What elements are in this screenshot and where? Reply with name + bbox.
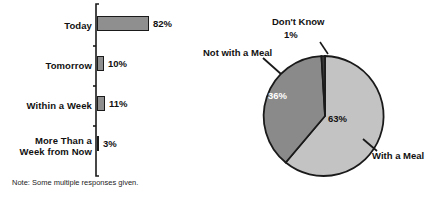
leader-line-not-with-a-meal (263, 58, 281, 74)
chart-note: Note: Some multiple responses given. (12, 178, 138, 188)
bar-category-label: Tomorrow (2, 60, 92, 71)
bar-value-label: 11% (109, 97, 128, 110)
pie-chart-graphic (200, 0, 442, 199)
bar-category-label: More Than a Week from Now (2, 135, 92, 157)
figure-container: Today 82% Tomorrow 10% Within a Week 11%… (0, 0, 442, 199)
bar-fill (97, 136, 99, 151)
pie-callout-not-with-a-meal-label: Not with a Meal (203, 47, 272, 58)
bar-fill (97, 16, 149, 31)
pie-chart: Don't Know 1% Not with a Meal With a Mea… (200, 0, 442, 199)
bar-track: 3% (97, 126, 197, 166)
bar-track: 10% (97, 46, 197, 86)
bar-row: Tomorrow 10% (0, 46, 200, 86)
bar-row: Today 82% (0, 6, 200, 46)
bar-category-label-line1: More Than a (2, 135, 92, 146)
bar-row: More Than a Week from Now 3% (0, 126, 200, 166)
bar-row: Within a Week 11% (0, 86, 200, 126)
bar-value-label: 10% (108, 57, 127, 70)
bar-category-label: Today (2, 20, 92, 31)
leader-line-dont-know (320, 42, 328, 54)
bar-value-label: 3% (103, 137, 117, 150)
bar-category-label: Within a Week (2, 100, 92, 111)
pie-slice-value-with-a-meal: 63% (328, 113, 347, 124)
bar-track: 82% (97, 6, 197, 46)
bar-category-label-line2: Week from Now (2, 146, 92, 157)
pie-callout-dont-know-label: Don't Know (272, 16, 324, 27)
bar-fill (97, 56, 104, 71)
bar-value-label: 82% (153, 17, 172, 30)
pie-slice-value-not-with-a-meal: 36% (268, 90, 287, 101)
pie-callout-with-a-meal-label: With a Meal (372, 150, 424, 161)
bar-chart: Today 82% Tomorrow 10% Within a Week 11%… (0, 0, 200, 199)
bar-track: 11% (97, 86, 197, 126)
bar-fill (97, 96, 105, 111)
pie-callout-dont-know-value: 1% (284, 29, 298, 40)
